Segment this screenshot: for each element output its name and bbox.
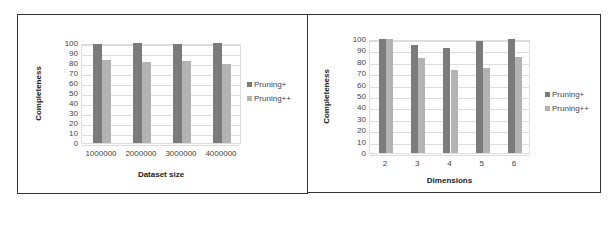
y-tick-label: 40 bbox=[344, 103, 366, 112]
x-tick-label: 4000000 bbox=[196, 149, 246, 158]
bar-pruningplusplus bbox=[386, 39, 393, 153]
plot-area bbox=[81, 44, 241, 144]
bar-pruningplusplus bbox=[451, 70, 458, 153]
y-axis-title: Completeness bbox=[322, 67, 331, 127]
y-tick-label: 80 bbox=[56, 59, 78, 68]
y-tick-label: 0 bbox=[344, 149, 366, 158]
bar-pruningplus bbox=[379, 39, 386, 153]
x-axis-title: Dataset size bbox=[81, 170, 241, 179]
legend-item: Pruning++ bbox=[545, 104, 589, 113]
legend-swatch-icon bbox=[247, 96, 252, 101]
bar-pruningplus bbox=[173, 44, 182, 143]
y-tick-label: 100 bbox=[344, 35, 366, 44]
gridline bbox=[82, 145, 240, 146]
bar-pruningplusplus bbox=[102, 60, 111, 143]
y-tick-label: 30 bbox=[56, 109, 78, 118]
legend-swatch-icon bbox=[545, 92, 550, 97]
gridline bbox=[370, 155, 529, 156]
bar-pruningplus bbox=[133, 43, 142, 143]
y-tick-label: 20 bbox=[56, 119, 78, 128]
bar-pruningplusplus bbox=[142, 62, 151, 143]
bar-pruningplus bbox=[476, 41, 483, 153]
bar-pruningplus bbox=[411, 45, 418, 153]
legend-item: Pruning+ bbox=[545, 90, 584, 99]
y-tick-label: 90 bbox=[344, 46, 366, 55]
y-tick-label: 30 bbox=[344, 115, 366, 124]
y-tick-label: 50 bbox=[56, 89, 78, 98]
legend-item: Pruning+ bbox=[247, 80, 286, 89]
bar-pruningplusplus bbox=[222, 64, 231, 143]
bar-pruningplusplus bbox=[418, 58, 425, 153]
y-tick-label: 20 bbox=[344, 126, 366, 135]
bar-pruningplus bbox=[93, 44, 102, 143]
y-tick-label: 70 bbox=[344, 69, 366, 78]
x-tick-label: 6 bbox=[489, 159, 539, 168]
y-tick-label: 60 bbox=[344, 81, 366, 90]
bar-pruningplusplus bbox=[515, 57, 522, 153]
legend-label: Pruning++ bbox=[552, 104, 589, 113]
y-axis-title: Completeness bbox=[34, 64, 43, 124]
legend-label: Pruning+ bbox=[254, 80, 286, 89]
legend-swatch-icon bbox=[545, 106, 550, 111]
gridline bbox=[370, 41, 529, 42]
bar-pruningplus bbox=[443, 48, 450, 153]
bar-pruningplusplus bbox=[182, 61, 191, 143]
y-tick-label: 10 bbox=[56, 129, 78, 138]
x-axis-title: Dimensions bbox=[369, 176, 530, 185]
legend-label: Pruning++ bbox=[254, 94, 291, 103]
y-tick-label: 50 bbox=[344, 92, 366, 101]
y-tick-label: 100 bbox=[56, 39, 78, 48]
y-tick-label: 70 bbox=[56, 69, 78, 78]
y-tick-label: 10 bbox=[344, 138, 366, 147]
y-tick-label: 80 bbox=[344, 58, 366, 67]
legend-swatch-icon bbox=[247, 82, 252, 87]
bar-pruningplus bbox=[508, 39, 515, 153]
legend-item: Pruning++ bbox=[247, 94, 291, 103]
bar-pruningplus bbox=[213, 43, 222, 143]
plot-area bbox=[369, 40, 530, 154]
y-tick-label: 40 bbox=[56, 99, 78, 108]
y-tick-label: 0 bbox=[56, 139, 78, 148]
bar-pruningplusplus bbox=[483, 68, 490, 154]
legend-label: Pruning+ bbox=[552, 90, 584, 99]
y-tick-label: 90 bbox=[56, 49, 78, 58]
y-tick-label: 60 bbox=[56, 79, 78, 88]
